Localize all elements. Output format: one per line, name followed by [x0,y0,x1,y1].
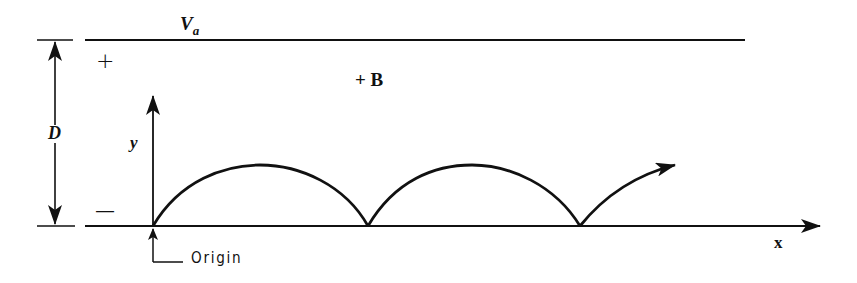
separation-label: D [48,124,61,142]
trajectory-arc-2 [368,165,580,226]
y-axis-label: y [130,134,138,151]
trajectory-arc-1 [153,165,368,226]
x-axis-label: x [774,234,783,251]
origin-pointer [153,229,183,262]
anode-voltage-label: Va [180,14,199,37]
diagram-canvas [0,0,857,283]
electron-trajectory [153,165,675,226]
magnetic-field-label: + B [355,70,383,89]
trajectory-arc-3 [580,165,675,226]
anode-voltage-subscript: a [193,23,200,38]
plus-sign-label: + [96,50,114,72]
origin-label: Origin [191,250,242,266]
minus-sign-label: — [95,200,115,220]
